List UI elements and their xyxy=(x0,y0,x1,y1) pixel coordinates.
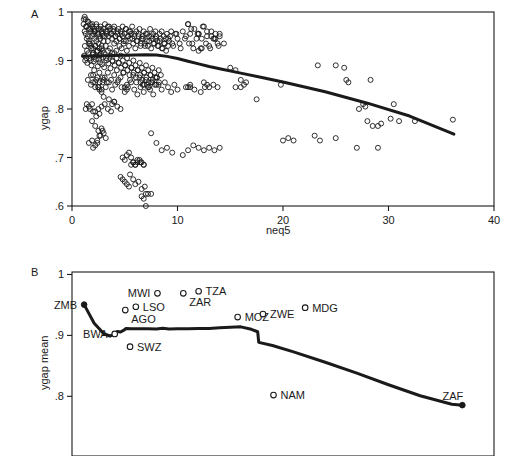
country-marker xyxy=(122,307,128,313)
panel-b-plot: .8.91ZMBBWAAGOLSOSWZMWIZARTZAMOZZWEMDGNA… xyxy=(0,240,508,456)
country-label: SWZ xyxy=(137,341,162,353)
country-label: LSO xyxy=(143,301,165,313)
country-marker xyxy=(235,314,241,320)
country-marker-filled xyxy=(460,402,466,408)
country-marker xyxy=(260,311,266,317)
country-marker xyxy=(302,305,308,311)
country-marker xyxy=(127,344,133,350)
panel-a: A ygap neq5 .6.7.8.91010203040 xyxy=(0,0,508,240)
country-marker xyxy=(155,291,161,297)
panel-a-ytick-label: 1 xyxy=(58,6,64,18)
panel-a-xtick-label: 40 xyxy=(488,214,500,226)
country-marker xyxy=(271,392,277,398)
panel-a-xtick-label: 10 xyxy=(171,214,183,226)
country-label: AGO xyxy=(131,313,156,325)
country-label: TZA xyxy=(206,285,227,297)
panel-a-letter: A xyxy=(31,8,38,20)
country-label: BWA xyxy=(83,328,108,340)
country-marker-filled xyxy=(81,302,87,308)
country-label: MDG xyxy=(312,302,338,314)
country-label: ZMB xyxy=(54,299,77,311)
panel-a-xtick-label: 30 xyxy=(382,214,394,226)
country-label: ZWE xyxy=(270,308,294,320)
panel-a-ylabel: ygap xyxy=(38,106,50,130)
panel-b-ytick-label: .9 xyxy=(55,329,64,341)
country-label: NAM xyxy=(281,389,305,401)
panel-a-ytick-label: .9 xyxy=(55,55,64,67)
panel-b-ylabel: ygap mean xyxy=(38,336,50,390)
panel-a-ytick-label: .6 xyxy=(55,200,64,212)
panel-b-letter: B xyxy=(31,266,38,278)
panel-a-xtick-label: 0 xyxy=(69,214,75,226)
country-label: ZAR xyxy=(189,296,211,308)
figure-root: A ygap neq5 .6.7.8.91010203040 B ygap me… xyxy=(0,0,508,456)
country-marker xyxy=(181,291,187,297)
country-label: ZAF xyxy=(443,390,464,402)
country-label: MWI xyxy=(128,287,151,299)
panel-b-frame xyxy=(72,272,494,456)
country-marker xyxy=(112,331,118,337)
panel-a-ytick-label: .7 xyxy=(55,152,64,164)
panel-a-plot: .6.7.8.91010203040 xyxy=(0,0,508,240)
panel-b: B ygap mean .8.91ZMBBWAAGOLSOSWZMWIZARTZ… xyxy=(0,240,508,456)
panel-a-xlabel: neq5 xyxy=(266,224,290,236)
panel-b-ytick-label: 1 xyxy=(58,268,64,280)
panel-a-ytick-label: .8 xyxy=(55,103,64,115)
panel-b-ytick-label: .8 xyxy=(55,390,64,402)
country-marker xyxy=(196,288,202,294)
country-marker xyxy=(133,304,139,310)
